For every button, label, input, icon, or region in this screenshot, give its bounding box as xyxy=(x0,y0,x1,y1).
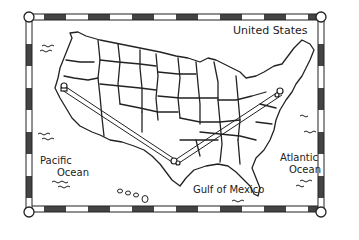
route-lines xyxy=(62,87,282,165)
ocean-waves xyxy=(38,45,316,202)
gulf-of-mexico-label: Gulf of Mexico xyxy=(193,184,264,195)
route-markers xyxy=(61,83,283,165)
pacific-ocean-label-line1: Pacific xyxy=(40,155,72,166)
atlantic-ocean-label-line2: Ocean xyxy=(289,164,321,175)
west-coast-marker-icon xyxy=(61,83,67,91)
map-title: United States xyxy=(233,25,308,36)
pacific-ocean-label-line2: Ocean xyxy=(57,167,89,178)
islands xyxy=(118,189,149,203)
atlantic-ocean-label-line1: Atlantic xyxy=(280,152,318,163)
us-outline xyxy=(55,32,314,196)
gulf-coast-marker-icon xyxy=(171,158,180,165)
